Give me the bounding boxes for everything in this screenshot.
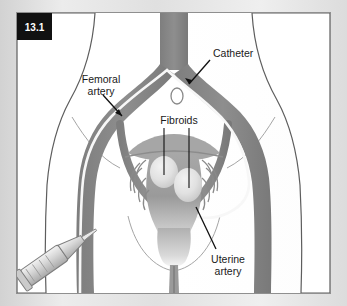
fibroid-right (174, 168, 202, 202)
label-fibroids: Fibroids (160, 114, 197, 126)
cervix (157, 228, 191, 267)
medical-illustration-canvas: 13.1 Catheter Femoral artery Fibroids Ut… (0, 0, 347, 306)
bladder (171, 88, 183, 104)
aorta (160, 13, 188, 70)
label-uterine-artery-line1: Uterine (211, 253, 245, 265)
label-catheter: Catheter (213, 47, 254, 59)
figure-badge-label: 13.1 (25, 22, 45, 33)
figure-13-1: 13.1 Catheter Femoral artery Fibroids Ut… (0, 0, 347, 306)
label-uterine-artery-line2: artery (215, 265, 243, 277)
label-femoral-artery-line2: artery (88, 85, 116, 97)
label-femoral-artery-line1: Femoral (82, 73, 121, 85)
